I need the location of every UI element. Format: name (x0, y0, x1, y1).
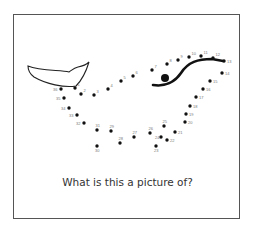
dot-label: 6 (136, 70, 139, 75)
dot-19 (184, 112, 187, 115)
dot-34 (67, 106, 70, 109)
dot-label: 16 (206, 87, 211, 92)
dot-label: 11 (204, 50, 209, 55)
dot-label: 4 (111, 83, 114, 88)
dot-12 (211, 56, 214, 59)
dot-32 (82, 121, 85, 124)
dot-4 (106, 87, 109, 90)
dot-2 (79, 92, 82, 95)
dot-label: 18 (193, 104, 198, 109)
dot-6 (131, 74, 134, 77)
dot-label: 26 (149, 126, 154, 131)
dot-20 (183, 120, 186, 123)
dot-13 (222, 59, 225, 62)
dot-9 (176, 58, 179, 61)
dot-31 (95, 128, 98, 131)
dot-28 (118, 141, 121, 144)
dot-10 (187, 55, 190, 58)
dot-25 (162, 124, 165, 127)
dot-18 (188, 104, 191, 107)
dot-label: 23 (154, 148, 159, 153)
dot-label: 32 (76, 121, 81, 126)
dot-label: 22 (170, 138, 175, 143)
dot-label: 33 (69, 113, 74, 118)
dot-label: 10 (192, 51, 197, 56)
dot-1 (73, 86, 76, 89)
dot-label: 31 (96, 123, 101, 128)
dot-33 (75, 113, 78, 116)
dot-label: 30 (95, 148, 100, 153)
dot-5 (119, 79, 122, 82)
dot-label: 20 (188, 120, 193, 125)
numbered-dots: 1234567891011121314151617181920212223242… (53, 50, 232, 154)
dot-8 (165, 62, 168, 65)
dot-22 (165, 138, 168, 141)
dot-label: 7 (155, 64, 158, 69)
dot-label: 17 (199, 95, 204, 100)
dot-label: 1 (78, 82, 81, 87)
dot-label: 24 (155, 135, 160, 140)
dot-17 (194, 95, 197, 98)
dot-label: 15 (213, 79, 218, 84)
dot-label: 29 (110, 124, 115, 129)
dot-label: 28 (119, 136, 124, 141)
dot-label: 21 (178, 130, 183, 135)
dot-3 (92, 93, 95, 96)
dot-7 (150, 68, 153, 71)
dot-label: 13 (227, 59, 232, 64)
dot-16 (201, 87, 204, 90)
question-text: What is this a picture of? (0, 176, 255, 188)
dot-35 (62, 96, 65, 99)
dot-label: 5 (124, 75, 127, 80)
dot-to-dot-canvas: 1234567891011121314151617181920212223242… (0, 0, 255, 234)
dot-15 (208, 79, 211, 82)
whale-eye (161, 74, 169, 82)
dot-26 (148, 131, 151, 134)
dot-27 (132, 135, 135, 138)
dot-24 (159, 135, 162, 138)
dot-label: 14 (225, 71, 230, 76)
dot-label: 25 (163, 119, 168, 124)
dot-label: 2 (84, 88, 87, 93)
dot-14 (220, 71, 223, 74)
whale-tail-outline (28, 62, 89, 87)
dot-label: 8 (170, 58, 173, 63)
dot-label: 19 (189, 112, 194, 117)
dot-29 (109, 129, 112, 132)
dot-label: 9 (181, 54, 184, 59)
dot-label: 3 (97, 89, 100, 94)
dot-21 (173, 130, 176, 133)
dot-11 (199, 54, 202, 57)
dot-label: 34 (61, 106, 66, 111)
dot-label: 36 (53, 87, 58, 92)
dot-label: 12 (216, 52, 221, 57)
dot-36 (59, 87, 62, 90)
dot-label: 27 (133, 130, 138, 135)
dot-label: 35 (56, 96, 61, 101)
